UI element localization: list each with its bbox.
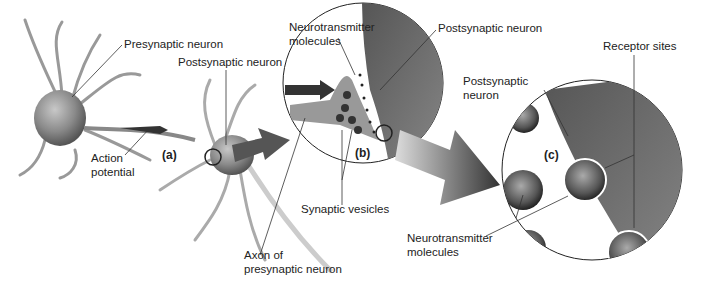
- label-neurotransmitter-b-line2: molecules: [289, 35, 341, 48]
- label-postsynaptic-neuron-a: Postsynaptic neuron: [178, 56, 282, 69]
- neuron-synapse-illustration: [0, 0, 702, 288]
- label-receptor-sites: Receptor sites: [603, 40, 677, 53]
- panel-label-b: (b): [355, 146, 370, 160]
- label-axon-line1: Axon of: [244, 249, 283, 262]
- label-presynaptic-neuron: Presynaptic neuron: [124, 38, 223, 51]
- label-synaptic-vesicles: Synaptic vesicles: [301, 203, 389, 216]
- label-neurotransmitter-b-line1: Neurotransmitter: [289, 21, 375, 34]
- label-axon-line2: presynaptic neuron: [244, 263, 342, 276]
- presynaptic-soma: [34, 90, 86, 146]
- label-neurotransmitter-c-line2: molecules: [407, 246, 459, 259]
- label-action-potential-line1: Action: [91, 152, 123, 165]
- label-neurotransmitter-c-line1: Neurotransmitter: [407, 232, 493, 245]
- label-postsynaptic-neuron-c-line2: neuron: [463, 89, 499, 102]
- label-action-potential-line2: potential: [91, 166, 134, 179]
- panel-label-a: (a): [162, 148, 177, 162]
- label-postsynaptic-neuron-b: Postsynaptic neuron: [438, 22, 542, 35]
- panel-label-c: (c): [544, 148, 559, 162]
- label-postsynaptic-neuron-c-line1: Postsynaptic: [463, 75, 528, 88]
